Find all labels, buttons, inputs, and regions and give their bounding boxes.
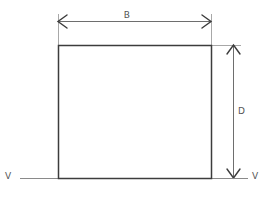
section-marker-label-left: V	[5, 172, 12, 181]
extension-lines	[59, 14, 242, 179]
width-dimension-B	[58, 15, 211, 28]
technical-drawing-canvas: B D V V	[0, 0, 271, 199]
cross-section-drawing	[0, 0, 271, 199]
width-dimension-label: B	[124, 11, 131, 20]
section-marker-label-right: V	[252, 172, 259, 181]
cross-section-rectangle	[59, 46, 212, 179]
depth-dimension-label: D	[238, 107, 245, 116]
